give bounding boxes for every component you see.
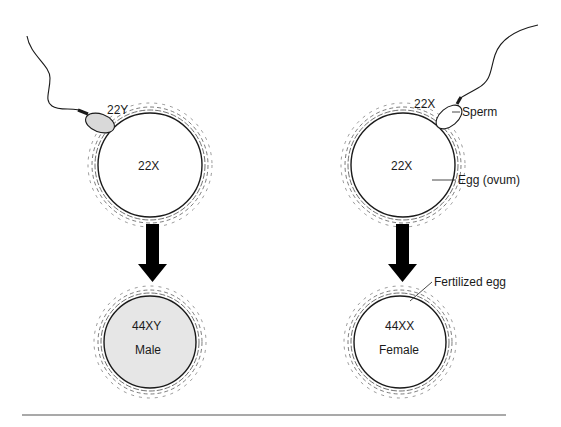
female-zygote <box>344 282 456 398</box>
sperm-callout: Sperm <box>462 106 497 118</box>
right-arrow-icon <box>388 224 417 282</box>
male-zygote <box>94 286 206 398</box>
left-sperm-label: 22Y <box>107 104 128 116</box>
right-sperm-label: 22X <box>414 98 435 110</box>
left-egg-label: 22X <box>138 160 159 172</box>
left-sperm <box>27 36 117 137</box>
right-karyotype-label: 44XX <box>385 320 414 332</box>
fertilized-egg-callout: Fertilized egg <box>434 276 506 288</box>
right-egg-label: 22X <box>391 160 412 172</box>
left-arrow-icon <box>138 224 167 282</box>
left-sex-label: Male <box>135 344 161 356</box>
diagram-canvas <box>0 0 561 427</box>
left-karyotype-label: 44XY <box>132 320 161 332</box>
egg-callout: Egg (ovum) <box>458 174 520 186</box>
right-sex-label: Female <box>379 344 419 356</box>
